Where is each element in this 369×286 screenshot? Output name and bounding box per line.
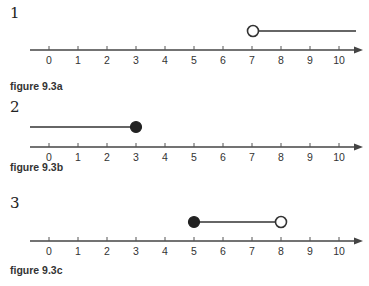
number-line-axis: 012345678910 — [30, 237, 363, 257]
tick-label: 7 — [249, 245, 255, 257]
arrow-right-icon — [354, 238, 363, 245]
figure-caption: figure 9.3b — [10, 161, 63, 173]
tick-label: 2 — [104, 151, 110, 163]
tick-label: 7 — [249, 151, 255, 163]
tick-label: 2 — [104, 54, 110, 66]
tick-label: 8 — [278, 151, 284, 163]
tick-label: 3 — [133, 54, 139, 66]
graph-ray — [248, 26, 357, 37]
tick-label: 6 — [220, 151, 226, 163]
tick-label: 5 — [191, 54, 197, 66]
open-circle-endpoint — [276, 217, 287, 228]
tick-label: 6 — [220, 54, 226, 66]
arrow-right-icon — [354, 47, 363, 54]
problem-number: 2 — [10, 98, 20, 116]
problem-number: 1 — [10, 4, 20, 22]
open-circle-endpoint — [248, 26, 259, 37]
tick-label: 1 — [75, 245, 81, 257]
figure-3: 3 012345678910 figure 9.3c — [10, 194, 363, 276]
figure-1: 1 012345678910 figure 9.3a — [10, 4, 363, 92]
tick-label: 10 — [333, 245, 345, 257]
tick-label: 10 — [333, 151, 345, 163]
tick-label: 4 — [162, 151, 168, 163]
tick-label: 4 — [162, 54, 168, 66]
figure-caption: figure 9.3a — [10, 80, 63, 92]
figure-2: 2 012345678910 figure 9.3b — [10, 98, 363, 173]
tick-label: 1 — [75, 151, 81, 163]
tick-label: 7 — [249, 54, 255, 66]
tick-label: 5 — [191, 245, 197, 257]
tick-label: 5 — [191, 151, 197, 163]
tick-label: 3 — [133, 245, 139, 257]
tick-label: 4 — [162, 245, 168, 257]
closed-dot-endpoint — [189, 217, 200, 228]
tick-label: 8 — [278, 245, 284, 257]
tick-label: 1 — [75, 54, 81, 66]
tick-label: 3 — [133, 151, 139, 163]
tick-label: 6 — [220, 245, 226, 257]
number-line-axis: 012345678910 — [30, 143, 363, 163]
number-line-figures: 1 012345678910 figure 9.3a 2 01234567891… — [0, 0, 369, 286]
tick-label: 9 — [307, 151, 313, 163]
tick-label: 2 — [104, 245, 110, 257]
tick-label: 0 — [46, 54, 52, 66]
tick-label: 9 — [307, 54, 313, 66]
tick-label: 10 — [333, 54, 345, 66]
graph-ray — [30, 122, 142, 133]
figure-caption: figure 9.3c — [10, 264, 63, 276]
tick-label: 8 — [278, 54, 284, 66]
number-line-axis: 012345678910 — [30, 46, 363, 66]
graph-segment — [189, 217, 287, 228]
closed-dot-endpoint — [131, 122, 142, 133]
tick-label: 0 — [46, 245, 52, 257]
arrow-right-icon — [354, 144, 363, 151]
problem-number: 3 — [10, 194, 20, 212]
tick-label: 9 — [307, 245, 313, 257]
